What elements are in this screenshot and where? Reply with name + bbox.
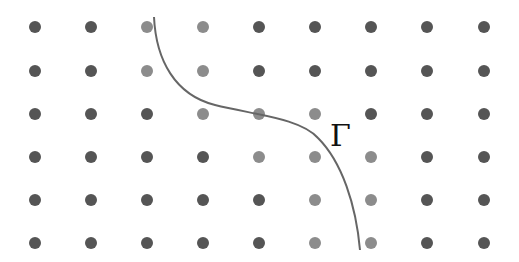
lattice-dot-dark — [309, 65, 321, 77]
lattice-dot-light — [253, 151, 265, 163]
lattice-dot-dark — [29, 65, 41, 77]
lattice-dot-light — [141, 65, 153, 77]
lattice-dot-dark — [29, 237, 41, 249]
lattice-dot-dark — [478, 65, 490, 77]
lattice-dot-light — [197, 108, 209, 120]
lattice-dot-dark — [421, 237, 433, 249]
lattice-dot-dark — [421, 194, 433, 206]
lattice-dot-dark — [309, 21, 321, 33]
lattice-dot-dark — [85, 65, 97, 77]
lattice-dot-dark — [365, 108, 377, 120]
lattice-dot-light — [365, 151, 377, 163]
lattice-dot-light — [309, 237, 321, 249]
lattice-dot-dark — [29, 21, 41, 33]
lattice-dot-dark — [85, 194, 97, 206]
lattice-dot-dark — [478, 237, 490, 249]
lattice-dot-dark — [253, 21, 265, 33]
lattice-dot-light — [309, 108, 321, 120]
lattice-dot-dark — [197, 237, 209, 249]
lattice-dot-dark — [85, 237, 97, 249]
lattice-dot-dark — [197, 151, 209, 163]
lattice-svg: Γ — [0, 0, 519, 262]
lattice-dot-dark — [141, 194, 153, 206]
lattice-dot-dark — [421, 65, 433, 77]
lattice-dot-light — [365, 194, 377, 206]
lattice-dot-dark — [365, 65, 377, 77]
lattice-dot-dark — [478, 108, 490, 120]
lattice-dot-dark — [478, 21, 490, 33]
lattice-dot-dark — [85, 108, 97, 120]
gamma-label: Γ — [330, 118, 351, 153]
lattice-dot-light — [197, 21, 209, 33]
lattice-dot-dark — [141, 108, 153, 120]
lattice-dot-dark — [478, 151, 490, 163]
lattice-dot-dark — [141, 151, 153, 163]
lattice-dot-dark — [421, 21, 433, 33]
lattice-diagram: Γ — [0, 0, 519, 262]
lattice-dot-dark — [421, 151, 433, 163]
lattice-dot-light — [309, 194, 321, 206]
lattice-dot-dark — [29, 151, 41, 163]
lattice-dot-dark — [421, 108, 433, 120]
lattice-dot-light — [197, 65, 209, 77]
lattice-dot-dark — [85, 151, 97, 163]
lattice-dot-dark — [29, 108, 41, 120]
lattice-dot-dark — [253, 237, 265, 249]
lattice-dot-dark — [141, 237, 153, 249]
lattice-dot-dark — [197, 194, 209, 206]
lattice-dot-light — [365, 237, 377, 249]
lattice-dot-light — [141, 21, 153, 33]
lattice-dot-dark — [85, 21, 97, 33]
background — [0, 0, 519, 262]
lattice-dot-dark — [253, 65, 265, 77]
lattice-dot-dark — [478, 194, 490, 206]
lattice-dot-dark — [365, 21, 377, 33]
lattice-dot-dark — [29, 194, 41, 206]
lattice-dot-dark — [253, 194, 265, 206]
lattice-dot-light — [309, 151, 321, 163]
